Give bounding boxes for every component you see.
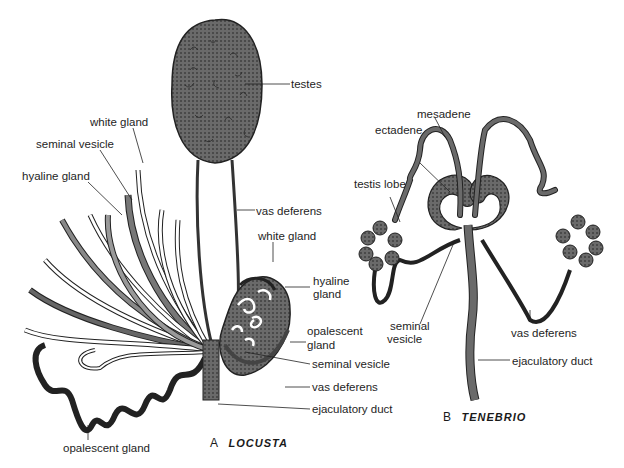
locusta-testes xyxy=(172,19,262,163)
label-ejaculatory-duct-b: ejaculatory duct xyxy=(512,355,593,368)
panel-title-b: BTENEBRIO xyxy=(443,410,526,424)
locusta-gland-mass xyxy=(220,277,290,375)
label-hyaline-gland-right-1: hyaline xyxy=(313,275,349,288)
label-hyaline-gland-right-2: gland xyxy=(313,288,341,301)
tenebrio-ectadene xyxy=(428,175,509,230)
label-white-gland-right: white gland xyxy=(258,230,316,243)
locusta-ejaculatory-duct xyxy=(203,340,219,400)
label-seminal-vesicle-b-1: seminal xyxy=(390,320,430,333)
label-vas-deferens-b: vas deferens xyxy=(511,327,577,340)
label-opalescent-gland-right-1: opalescent xyxy=(307,325,363,338)
label-opalescent-gland-bottom: opalescent gland xyxy=(63,442,150,455)
tenebrio-testis-lobe-left xyxy=(359,221,402,271)
locusta-accessory-glands xyxy=(25,170,210,369)
label-vas-deferens-top: vas deferens xyxy=(256,205,322,218)
label-ejaculatory-duct-a: ejaculatory duct xyxy=(312,403,393,416)
label-vas-deferens-bottom: vas deferens xyxy=(312,381,378,394)
label-ectadene: ectadene xyxy=(375,124,422,137)
label-testis-lobe: testis lobe xyxy=(354,178,406,191)
tenebrio-testis-lobe-right xyxy=(556,215,603,267)
label-hyaline-gland-left: hyaline gland xyxy=(22,170,90,183)
label-mesadene: mesadene xyxy=(417,108,471,121)
label-seminal-vesicle-left: seminal vesicle xyxy=(36,138,114,151)
label-seminal-vesicle-right: seminal vesicle xyxy=(312,358,390,371)
label-white-gland-left: white gland xyxy=(90,116,148,129)
label-testes: testes xyxy=(291,78,322,91)
label-opalescent-gland-right-2: gland xyxy=(307,339,335,352)
label-seminal-vesicle-b-2: vesicle xyxy=(387,333,422,346)
panel-title-a: ALOCUSTA xyxy=(210,436,288,450)
